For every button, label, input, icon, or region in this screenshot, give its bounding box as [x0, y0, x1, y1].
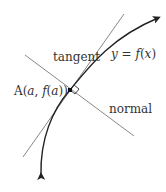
curve-label: y = f(x) [110, 47, 156, 61]
tangent-label: tangent [53, 50, 100, 64]
normal-label: normal [109, 102, 152, 116]
point-a-marker [68, 88, 72, 92]
tangent-normal-diagram: tangent y = f(x) A(a, f(a)) normal [0, 0, 166, 192]
point-a-label: A(a, f(a)) [13, 84, 68, 98]
